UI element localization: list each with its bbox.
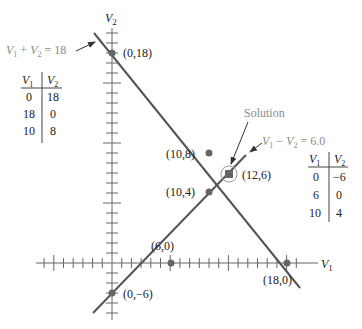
x-axis-label: V1 — [321, 257, 333, 273]
label-point-6-0: (6,0) — [151, 239, 174, 253]
table-2-cell: 0 — [336, 188, 342, 202]
table-2: V1 V2 0 −6 6 0 10 4 — [308, 152, 348, 222]
table-1-cell: 18 — [23, 107, 35, 121]
table-2-cell: 6 — [313, 188, 319, 202]
solution-label: Solution — [244, 106, 285, 120]
table-1-cell: 8 — [50, 124, 56, 138]
table-1: V1 V2 0 18 18 0 10 8 — [21, 72, 62, 143]
point-10-8 — [206, 150, 213, 157]
solution-arrow — [231, 122, 248, 164]
table-2-cell: 10 — [309, 206, 321, 220]
label-point-12-6: (12,6) — [242, 168, 271, 182]
point-10-4 — [206, 189, 213, 196]
table-1-header-v2: V2 — [47, 73, 58, 89]
point-12-6 — [225, 170, 233, 178]
table-2-cell: 4 — [336, 206, 342, 220]
label-point-10-8: (10,8) — [166, 147, 195, 161]
point-0-neg6 — [109, 290, 116, 297]
table-2-cell: −6 — [333, 170, 346, 184]
linear-system-diagram: (0,18) (18,0) (10,8) (12,6) (10,4) (6,0)… — [0, 0, 362, 329]
label-point-10-4: (10,4) — [166, 185, 195, 199]
equation-1-arrow — [76, 42, 95, 51]
equation-label-1: V1 + V2 = 18 — [6, 43, 66, 59]
table-1-header-v1: V1 — [22, 73, 33, 89]
table-2-header-v2: V2 — [334, 152, 345, 168]
table-2-header-v1: V1 — [309, 152, 320, 168]
equation-2-arrow — [250, 143, 262, 152]
equation-label-2: V1 − V2 = 6.0 — [262, 134, 325, 150]
point-18-0 — [284, 260, 291, 267]
point-6-0 — [168, 260, 175, 267]
table-1-cell: 10 — [23, 124, 35, 138]
point-0-18 — [109, 50, 116, 57]
line-v1-plus-v2-eq-18 — [94, 33, 300, 288]
table-1-cell: 0 — [26, 90, 32, 104]
label-point-0-neg6: (0,−6) — [123, 287, 153, 301]
label-point-18-0: (18,0) — [263, 273, 292, 287]
table-1-cell: 0 — [50, 107, 56, 121]
table-1-cell: 18 — [47, 90, 59, 104]
label-point-0-18: (0,18) — [123, 46, 152, 60]
y-axis-label: V2 — [105, 11, 117, 27]
table-2-cell: 0 — [313, 170, 319, 184]
